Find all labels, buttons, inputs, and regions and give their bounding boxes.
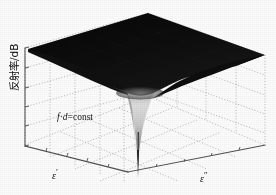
surface-plateau — [28, 13, 265, 100]
x-axis-label-prime: ′ — [56, 167, 58, 177]
y-axis-label: ε″ — [200, 171, 208, 184]
z-axis-label: 反射率/dB — [9, 31, 20, 103]
annotation-equals-const: =const — [68, 112, 93, 122]
plot-annotation: f·d=const — [57, 112, 93, 122]
x-axis-ticks — [46, 148, 109, 167]
plot-canvas — [0, 0, 276, 195]
figure-3d-surface-plot: 反射率/dB ε′ ε″ f·d=const — [0, 0, 276, 195]
surface-funnel — [126, 92, 155, 178]
z-axis-ticks — [25, 47, 29, 146]
x-axis-label: ε′ — [52, 168, 58, 181]
y-axis-label-prime: ″ — [204, 170, 208, 180]
